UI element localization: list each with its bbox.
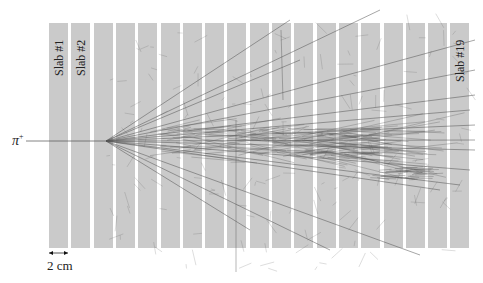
slab-label-2: Slab #2 bbox=[74, 40, 89, 76]
scale-bar-label: 2 cm bbox=[47, 258, 73, 274]
scale-arrowhead bbox=[64, 251, 68, 255]
slab-label-1: Slab #1 bbox=[52, 40, 67, 76]
scale-arrowhead bbox=[49, 251, 53, 255]
particle-tracks bbox=[0, 0, 483, 283]
hadronic-shower-diagram: Slab #1 Slab #2 Slab #19 π+ 2 cm bbox=[0, 0, 483, 283]
slab-label-19: Slab #19 bbox=[453, 40, 468, 82]
beam-particle-label: π+ bbox=[12, 132, 24, 149]
